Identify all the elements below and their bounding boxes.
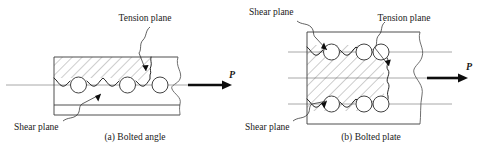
label-tension-plane-b: Tension plane [378,13,431,23]
panel-bolted-plate: P Shear plane Tension plane Shear plane … [245,7,473,143]
force-label-a: P [229,69,236,80]
force-arrow-b [427,74,468,83]
force-arrow-a [188,81,232,90]
leader-arrowhead-shear-a [95,94,101,102]
force-label-b: P [466,61,473,72]
break-line-a [172,57,181,115]
label-shear-plane-b-top: Shear plane [249,7,294,17]
panel-bolted-angle: P Tension plane Shear plane (a) Bolted a… [6,13,236,143]
caption-panel-b: (b) Bolted plate [341,132,401,143]
label-tension-plane-a: Tension plane [119,13,172,23]
figure-container: P Tension plane Shear plane (a) Bolted a… [0,0,486,158]
leader-shear-plane-a [63,94,101,121]
caption-panel-a: (a) Bolted angle [104,132,165,143]
figure-svg: P Tension plane Shear plane (a) Bolted a… [0,0,486,158]
label-shear-plane-a: Shear plane [14,122,59,132]
hatched-block-a [54,55,154,85]
label-shear-plane-b-bottom: Shear plane [245,122,290,132]
